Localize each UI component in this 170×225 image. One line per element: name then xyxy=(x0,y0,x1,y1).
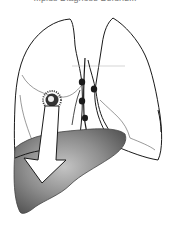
lymph-node xyxy=(79,79,85,86)
anatomy-illustration xyxy=(0,0,170,225)
lymph-node xyxy=(79,98,85,105)
lymph-node xyxy=(82,115,88,122)
liver xyxy=(14,129,126,214)
lymph-node xyxy=(91,86,97,93)
